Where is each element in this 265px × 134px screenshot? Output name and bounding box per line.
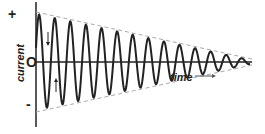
damped-oscillation-plot [0,0,265,134]
tick-plus: + [8,6,16,22]
y-axis-label: current [14,44,26,82]
arrow-down-head [46,42,50,46]
time-arrow-head [212,74,216,78]
x-axis-label: time [170,71,193,83]
damped-sine-curve [36,15,250,108]
tick-minus: - [26,96,31,112]
arrow-up-head [54,78,58,82]
tick-zero: O [26,54,37,70]
